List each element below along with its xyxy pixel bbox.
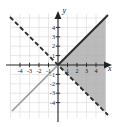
y-tick-label-4: 4 bbox=[52, 24, 55, 31]
y-tick-label--2: -2 bbox=[50, 80, 55, 87]
x-tick-label-3: 3 bbox=[85, 67, 88, 74]
y-tick-label--1: -1 bbox=[50, 71, 55, 78]
x-tick-label--4: -4 bbox=[17, 67, 22, 74]
y-tick-label--4: -4 bbox=[50, 99, 55, 106]
graph-svg: -4 -3 -2 -1 1 2 3 4 4 3 2 1 -1 -2 -3 -4 … bbox=[0, 0, 118, 127]
x-axis-label: x bbox=[107, 64, 112, 73]
y-tick-label-2: 2 bbox=[52, 42, 55, 49]
x-tick-label-2: 2 bbox=[75, 67, 78, 74]
x-tick-label-1: 1 bbox=[66, 67, 69, 74]
x-tick-label-4: 4 bbox=[94, 67, 97, 74]
y-axis-label: y bbox=[62, 6, 67, 15]
y-tick-label-1: 1 bbox=[52, 52, 55, 59]
y-tick-label-3: 3 bbox=[52, 33, 55, 40]
x-tick-label--3: -3 bbox=[27, 67, 32, 74]
x-tick-label--2: -2 bbox=[36, 67, 41, 74]
coordinate-plane-figure: -4 -3 -2 -1 1 2 3 4 4 3 2 1 -1 -2 -3 -4 … bbox=[0, 0, 118, 127]
y-tick-label--3: -3 bbox=[50, 89, 55, 96]
